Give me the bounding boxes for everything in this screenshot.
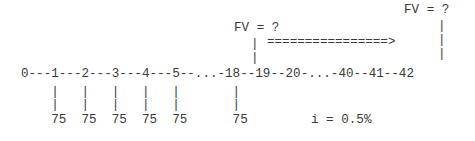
interest-rate-label: i = 0.5%	[311, 114, 371, 127]
stem-above-period-18-upper: |	[251, 38, 259, 51]
payment-stems-lower: | | | | | |	[21, 99, 240, 112]
stem-above-period-42-upper: |	[438, 20, 446, 33]
future-value-label-period-18: FV = ?	[234, 22, 279, 35]
accumulation-arrow-icon: ================>	[267, 36, 395, 49]
stem-above-period-42-lower: |	[438, 48, 446, 61]
stem-above-period-18-lower: |	[251, 52, 259, 65]
timeline-axis: 0---1---2---3---4---5--...-18--19--20-..…	[21, 68, 414, 81]
payment-amounts-row: 75 75 75 75 75 75	[21, 114, 248, 127]
future-value-label-period-42: FV = ?	[404, 4, 449, 17]
stem-above-period-42-middle: |	[438, 34, 446, 47]
cash-flow-timeline-diagram: FV = ? FV = ? | | | | | ================…	[0, 0, 475, 141]
